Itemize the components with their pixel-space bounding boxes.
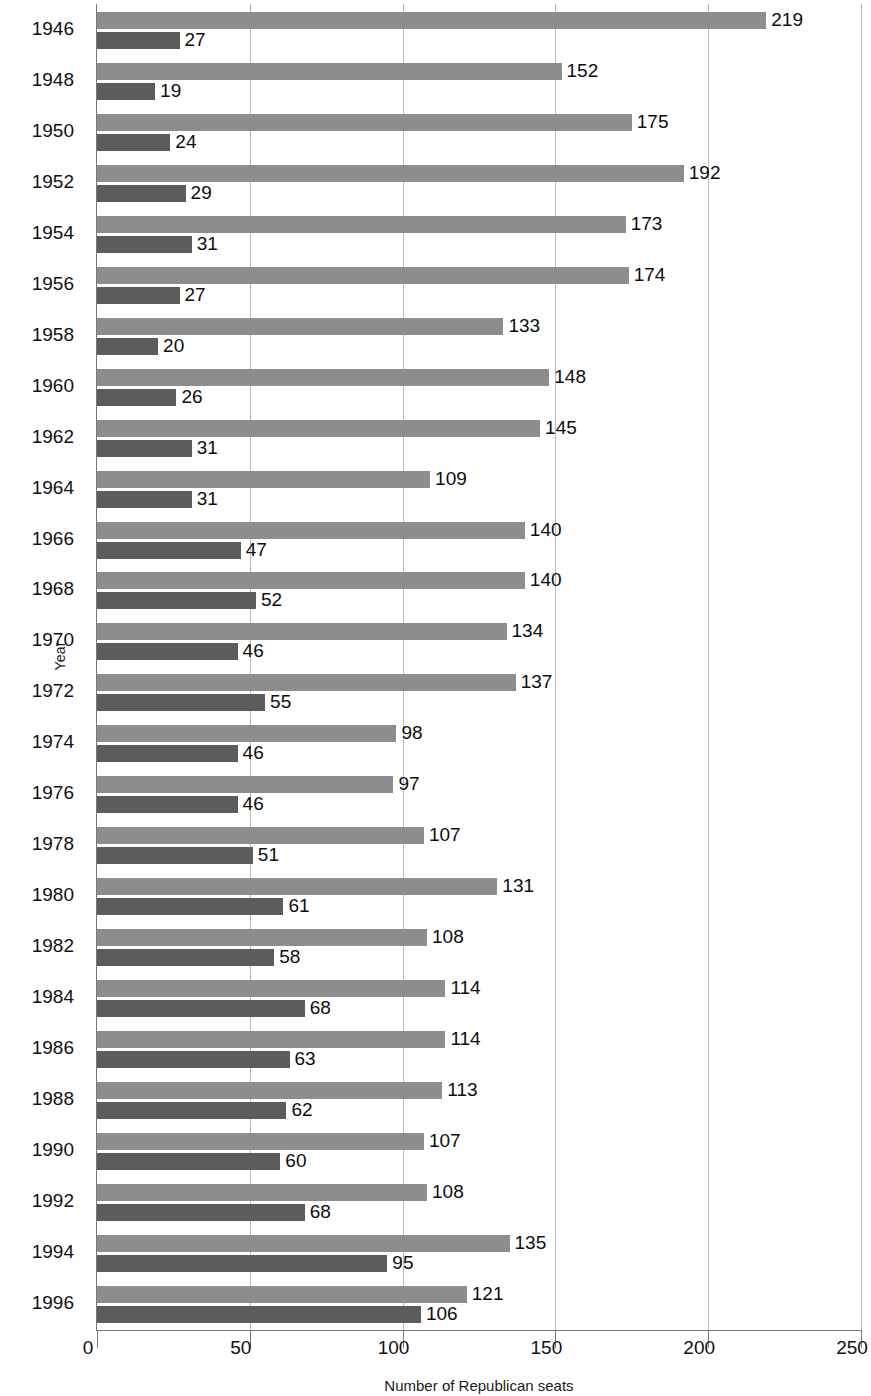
bar-value-1962-house: 145 — [545, 419, 577, 436]
y-tick-label-1964: 1964 — [0, 478, 74, 498]
chart-row: 196614047 — [97, 522, 861, 562]
bar-value-1982-senate: 58 — [279, 948, 300, 965]
gridline-250 — [861, 4, 862, 1330]
bar-value-1950-senate: 24 — [175, 133, 196, 150]
chart-row: 19749846 — [97, 725, 861, 765]
bar-value-1988-house: 113 — [447, 1081, 477, 1098]
bar-value-1948-senate: 19 — [160, 82, 181, 99]
bar-1978-house — [97, 827, 424, 844]
bar-value-1948-house: 152 — [567, 62, 599, 79]
bar-1950-senate — [97, 134, 170, 151]
y-tick-label-1956: 1956 — [0, 274, 74, 294]
chart-row: 198013161 — [97, 878, 861, 918]
bar-1990-house — [97, 1133, 424, 1150]
chart-row: 197213755 — [97, 674, 861, 714]
bar-1990-senate — [97, 1153, 280, 1170]
bar-1988-house — [97, 1082, 442, 1099]
bar-1972-senate — [97, 694, 265, 711]
chart-row: 198210858 — [97, 929, 861, 969]
bar-1976-senate — [97, 796, 238, 813]
bar-1962-senate — [97, 440, 192, 457]
y-tick-label-1976: 1976 — [0, 783, 74, 803]
y-tick-label-1948: 1948 — [0, 70, 74, 90]
y-tick-label-1986: 1986 — [0, 1038, 74, 1058]
bar-1968-house — [97, 572, 525, 589]
bar-value-1976-house: 97 — [398, 775, 419, 792]
chart-row: 196814052 — [97, 572, 861, 612]
bar-value-1986-senate: 63 — [295, 1050, 316, 1067]
bar-value-1954-senate: 31 — [197, 235, 218, 252]
chart-row: 198411468 — [97, 980, 861, 1020]
bar-value-1962-senate: 31 — [197, 439, 218, 456]
bar-1946-senate — [97, 32, 180, 49]
bar-value-1984-house: 114 — [450, 979, 480, 996]
chart-row: 195219229 — [97, 165, 861, 205]
bar-value-1990-house: 107 — [429, 1132, 461, 1149]
x-tick-label-150: 150 — [511, 1337, 581, 1359]
y-tick-label-1952: 1952 — [0, 172, 74, 192]
bar-1950-house — [97, 114, 632, 131]
chart-row: 196214531 — [97, 420, 861, 460]
bar-value-1964-house: 109 — [435, 470, 467, 487]
y-tick-label-1984: 1984 — [0, 987, 74, 1007]
y-tick-label-1960: 1960 — [0, 376, 74, 396]
bar-1970-senate — [97, 643, 238, 660]
y-tick-label-1946: 1946 — [0, 19, 74, 39]
chart-row: 197013446 — [97, 623, 861, 663]
bar-value-1980-house: 131 — [502, 877, 534, 894]
bar-value-1972-house: 137 — [521, 673, 553, 690]
y-tick-label-1988: 1988 — [0, 1089, 74, 1109]
bar-value-1970-house: 134 — [512, 622, 544, 639]
bar-value-1994-senate: 95 — [392, 1254, 413, 1271]
bar-1976-house — [97, 776, 393, 793]
y-tick-label-1958: 1958 — [0, 325, 74, 345]
bar-value-1968-senate: 52 — [261, 591, 282, 608]
bar-value-1996-senate: 106 — [426, 1305, 458, 1322]
bar-value-1974-senate: 46 — [243, 744, 264, 761]
bar-1946-house — [97, 12, 766, 29]
bar-value-1970-senate: 46 — [243, 642, 264, 659]
bar-value-1966-house: 140 — [530, 521, 562, 538]
bar-value-1972-senate: 55 — [270, 693, 291, 710]
bar-1956-house — [97, 267, 629, 284]
x-tick-label-50: 50 — [206, 1337, 276, 1359]
x-axis-title: Number of Republican seats — [97, 1377, 861, 1394]
bar-1948-house — [97, 63, 562, 80]
x-tick-label-0: 0 — [53, 1337, 123, 1359]
bar-1996-senate — [97, 1306, 421, 1323]
bar-value-1996-house: 121 — [472, 1285, 504, 1302]
y-tick-label-1980: 1980 — [0, 885, 74, 905]
chart-row: 194815219 — [97, 63, 861, 103]
bar-1992-senate — [97, 1204, 305, 1221]
x-tick-label-250: 250 — [817, 1337, 871, 1359]
bar-1988-senate — [97, 1102, 286, 1119]
chart-row: 199010760 — [97, 1133, 861, 1173]
x-tick-label-200: 200 — [664, 1337, 734, 1359]
bar-value-1990-senate: 60 — [285, 1152, 306, 1169]
bar-value-1966-senate: 47 — [246, 541, 267, 558]
bar-value-1960-senate: 26 — [181, 388, 202, 405]
bar-chart: Year 050100150200250 1946219271948152191… — [0, 0, 871, 1396]
bar-1956-senate — [97, 287, 180, 304]
bar-value-1978-house: 107 — [429, 826, 461, 843]
bar-1964-house — [97, 471, 430, 488]
bar-value-1952-senate: 29 — [191, 184, 212, 201]
bar-value-1958-house: 133 — [508, 317, 540, 334]
y-tick-label-1962: 1962 — [0, 427, 74, 447]
chart-row: 195617427 — [97, 267, 861, 307]
bar-1952-house — [97, 165, 684, 182]
bar-1958-senate — [97, 338, 158, 355]
chart-row: 196410931 — [97, 471, 861, 511]
y-tick-label-1966: 1966 — [0, 529, 74, 549]
bar-value-1980-senate: 61 — [288, 897, 309, 914]
bar-value-1964-senate: 31 — [197, 490, 218, 507]
x-tick-label-100: 100 — [359, 1337, 429, 1359]
bar-1960-house — [97, 369, 549, 386]
bar-value-1992-senate: 68 — [310, 1203, 331, 1220]
bar-1984-senate — [97, 1000, 305, 1017]
bar-1968-senate — [97, 592, 256, 609]
chart-row: 1996121106 — [97, 1286, 861, 1326]
bar-value-1958-senate: 20 — [163, 337, 184, 354]
chart-row: 19769746 — [97, 776, 861, 816]
bar-1994-senate — [97, 1255, 387, 1272]
